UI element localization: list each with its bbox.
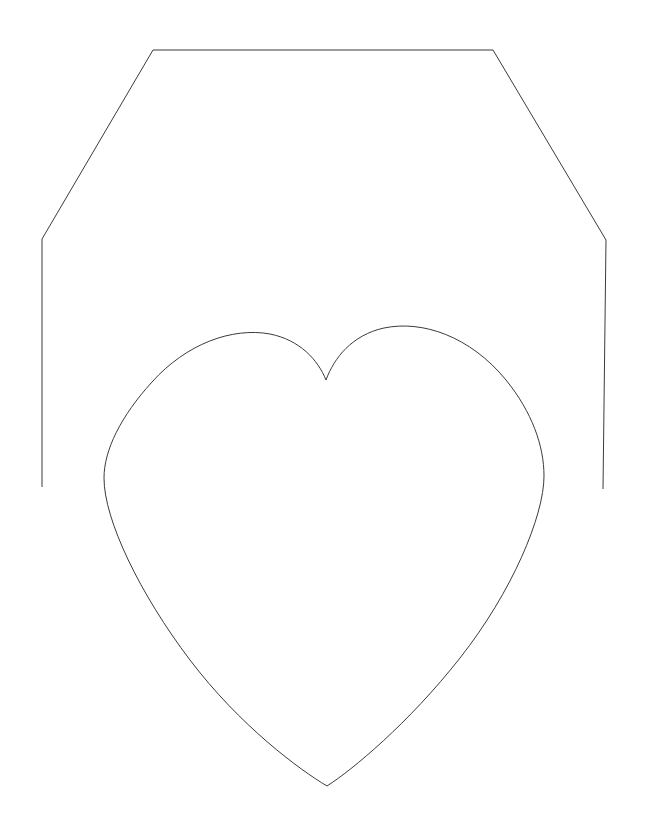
- line-drawing-svg: [0, 0, 645, 837]
- drawing-canvas: [0, 0, 645, 837]
- canvas-background: [0, 0, 645, 837]
